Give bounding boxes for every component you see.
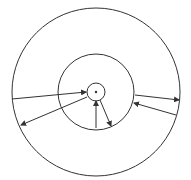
concentric-circles-diagram [0, 0, 191, 180]
arrow-2 [21, 97, 87, 125]
arrow-5 [135, 95, 179, 100]
arrow-6 [134, 103, 176, 115]
arrow-1 [12, 92, 86, 99]
arrow-4 [100, 100, 111, 126]
center-dot [95, 91, 97, 93]
arrows-group [12, 92, 179, 128]
